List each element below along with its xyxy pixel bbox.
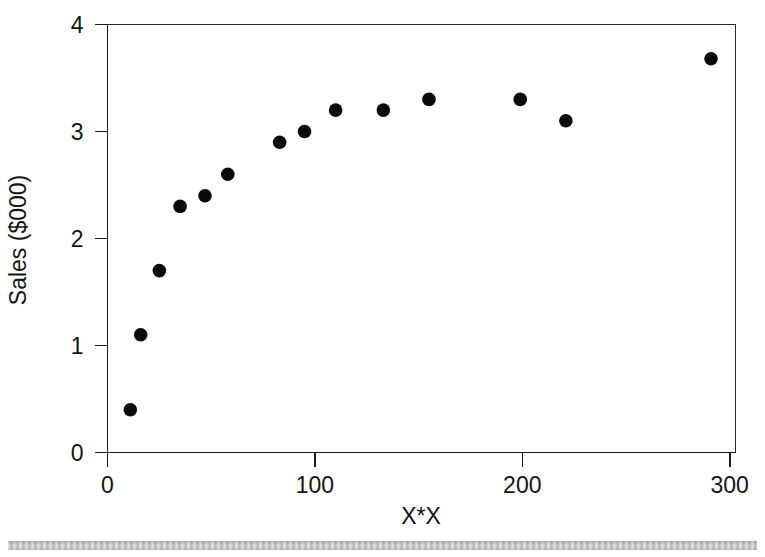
x-tick-label: 0 — [101, 472, 114, 498]
data-point-marker — [124, 403, 138, 417]
scatter-series — [124, 52, 718, 417]
x-tick-label: 300 — [711, 472, 749, 498]
data-point-marker — [377, 103, 391, 117]
y-tick-label: 4 — [71, 12, 84, 38]
data-point-marker — [298, 125, 312, 139]
data-point-marker — [329, 103, 343, 117]
data-point-marker — [513, 93, 527, 107]
scatter-plot-figure: 01234 Sales ($000) 0100200300 X*X — [0, 0, 765, 557]
data-point-marker — [198, 189, 212, 203]
data-point-marker — [173, 200, 187, 214]
x-tick-label: 200 — [503, 472, 541, 498]
x-axis-title: X*X — [401, 503, 441, 529]
data-point-marker — [559, 114, 573, 128]
y-tick-label: 0 — [71, 440, 84, 466]
y-axis: 01234 Sales ($000) — [5, 12, 108, 466]
chart-canvas: 01234 Sales ($000) 0100200300 X*X — [0, 0, 765, 557]
y-tick-label: 2 — [71, 226, 84, 252]
plot-frame — [108, 25, 736, 453]
data-point-marker — [704, 52, 718, 66]
data-point-marker — [221, 168, 235, 182]
plot-frame-path — [108, 25, 736, 453]
y-axis-ticks: 01234 — [71, 12, 108, 466]
data-point-marker — [273, 135, 287, 149]
y-tick-label: 1 — [71, 333, 84, 359]
y-axis-title: Sales ($000) — [5, 175, 31, 305]
scan-artifact-bar — [8, 541, 757, 550]
data-point-marker — [153, 264, 167, 278]
x-axis: 0100200300 X*X — [101, 453, 749, 530]
data-point-marker — [422, 93, 436, 107]
x-tick-label: 100 — [296, 472, 334, 498]
data-point-marker — [134, 328, 148, 342]
x-axis-ticks: 0100200300 — [101, 453, 749, 498]
y-tick-label: 3 — [71, 119, 84, 145]
